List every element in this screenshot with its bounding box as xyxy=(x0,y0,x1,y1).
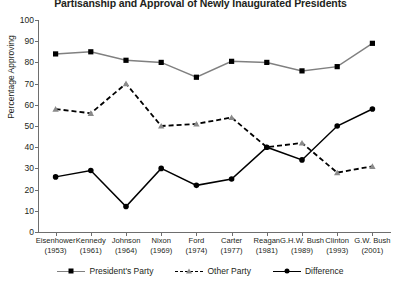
y-tick-label: 100 xyxy=(4,15,34,25)
series-president-s-party xyxy=(53,41,375,80)
y-axis-ticks: 0102030405060708090100 xyxy=(0,20,34,233)
x-tick-mark xyxy=(232,233,233,236)
x-tick-label: Reagan(1981) xyxy=(253,236,280,256)
x-tick-label: G.H.W. Bush(1989) xyxy=(280,236,324,256)
chart-title: Partisanship and Approval of Newly Inaug… xyxy=(0,0,401,9)
legend-label: President's Party xyxy=(89,266,153,276)
x-tick-mark xyxy=(196,233,197,236)
x-tick-mark xyxy=(126,233,127,236)
y-tick-label: 40 xyxy=(4,142,34,152)
series-other-party xyxy=(52,81,375,176)
x-tick-label: Ford(1974) xyxy=(185,236,207,256)
x-tick-label: Johnson(1964) xyxy=(112,236,141,256)
y-tick-label: 70 xyxy=(4,79,34,89)
y-tick-label: 80 xyxy=(4,57,34,67)
legend-swatch-icon xyxy=(273,267,301,276)
x-tick-label: Kennedy(1961) xyxy=(76,236,106,256)
x-tick-mark xyxy=(372,233,373,236)
x-tick-label: Carter(1977) xyxy=(221,236,243,256)
x-tick-mark xyxy=(267,233,268,236)
x-tick-mark xyxy=(56,233,57,236)
y-tick-label: 30 xyxy=(4,163,34,173)
y-tick-label: 50 xyxy=(4,121,34,131)
series-difference xyxy=(53,106,375,209)
legend-item[interactable]: President's Party xyxy=(57,266,153,276)
x-tick-label: Clinton(1993) xyxy=(325,236,349,256)
y-tick-label: 60 xyxy=(4,100,34,110)
x-tick-label: G.W. Bush(2001) xyxy=(354,236,390,256)
x-tick-label: Eisenhower(1953) xyxy=(36,236,76,256)
y-tick-label: 90 xyxy=(4,36,34,46)
legend-label: Other Party xyxy=(207,266,250,276)
y-tick-label: 10 xyxy=(4,206,34,216)
y-tick-label: 20 xyxy=(4,185,34,195)
legend-item[interactable]: Difference xyxy=(273,266,344,276)
x-tick-mark xyxy=(161,233,162,236)
x-tick-mark xyxy=(337,233,338,236)
plot-area xyxy=(38,20,390,232)
chart-container: Partisanship and Approval of Newly Inaug… xyxy=(0,0,401,288)
legend-swatch-icon xyxy=(175,267,203,276)
x-tick-mark xyxy=(91,233,92,236)
legend-swatch-icon xyxy=(57,267,85,276)
y-tick-label: 0 xyxy=(4,227,34,237)
series-layer xyxy=(38,20,390,232)
x-tick-mark xyxy=(302,233,303,236)
legend-item[interactable]: Other Party xyxy=(175,266,250,276)
chart-legend: President's PartyOther PartyDifference xyxy=(0,266,401,276)
legend-label: Difference xyxy=(305,266,344,276)
x-tick-label: Nixon(1969) xyxy=(150,236,172,256)
